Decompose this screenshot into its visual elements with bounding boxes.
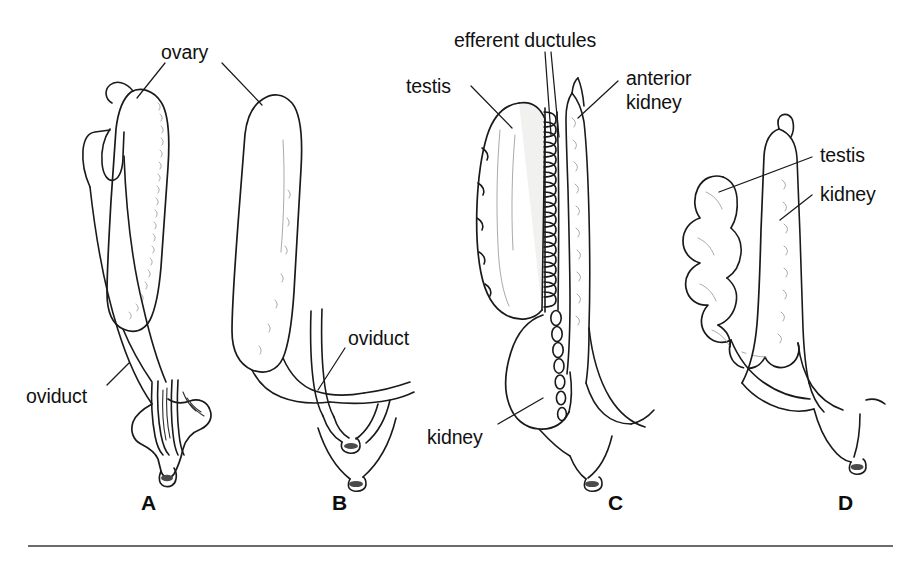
label-oviduct-a: oviduct <box>26 386 87 408</box>
label-efferent-ductules: efferent ductules <box>454 30 596 52</box>
panel-c-drawing <box>477 78 654 491</box>
figure-root: ovary oviduct oviduct efferent ductules … <box>0 0 919 561</box>
leader-oviduct-a <box>107 363 129 385</box>
cloacal-funnel-right-c <box>588 436 612 478</box>
kidney-right-branch-c <box>586 383 631 424</box>
papilla-lateral-spur-d <box>866 399 885 404</box>
kidney-lateral-branch-c <box>589 328 645 427</box>
cloacal-aperture-lower-b <box>349 481 363 487</box>
kidney-posterior-left-d <box>742 383 814 411</box>
papilla-left-wall-d <box>814 409 851 462</box>
cloaca-left-inner-b <box>334 417 349 438</box>
panel-letter-c: C <box>608 491 623 515</box>
efferent-ductules-lateral-c <box>557 112 559 310</box>
label-testis-d: testis <box>820 145 865 167</box>
panel-letter-a: A <box>141 491 156 515</box>
anterior-kidney-medial-edge-c <box>566 93 572 374</box>
oviduct-branch-upper-right-b <box>364 382 410 393</box>
cloacal-aperture-c <box>585 481 599 487</box>
panel-d-drawing <box>683 114 885 474</box>
cloacal-funnel-left-c <box>570 456 586 479</box>
anterior-kidney-lateral-edge-c <box>572 93 590 383</box>
leader-ovary-to-b <box>222 63 262 105</box>
cloacal-aperture-upper-b <box>344 443 358 449</box>
label-anterior-kidney-line1: anterior <box>626 68 691 90</box>
anatomy-illustration <box>0 0 919 561</box>
posterior-kidney-medial-c <box>569 372 571 412</box>
label-oviduct-b: oviduct <box>348 328 409 350</box>
ovary-body-b <box>232 95 302 372</box>
label-kidney-c: kidney <box>427 427 483 449</box>
panel-letter-b: B <box>332 491 347 515</box>
anterior-kidney-tip-c <box>572 78 578 93</box>
anterior-kidney-texture-c <box>572 118 581 325</box>
anterior-kidney-tip-right-c <box>578 78 584 106</box>
oviduct-tube-right-b <box>322 309 334 417</box>
papilla-right-wall-d <box>854 414 860 457</box>
panel-b-drawing <box>232 95 414 491</box>
papilla-aperture-d <box>851 464 864 470</box>
label-kidney-d: kidney <box>820 184 876 206</box>
leader-kidney-d <box>780 195 812 220</box>
panel-a-drawing <box>83 82 211 486</box>
posterior-kidney-lobe-c <box>506 315 569 429</box>
ovary-posterior-bend-b <box>252 370 330 403</box>
posterior-kidney-duct-c <box>539 429 570 456</box>
ovary-body-a <box>107 89 169 331</box>
label-testis-c: testis <box>406 76 451 98</box>
label-ovary: ovary <box>161 42 208 64</box>
label-anterior-kidney-line2: kidney <box>626 92 682 114</box>
oviduct-branch-lower-right-b <box>330 392 414 403</box>
cloacal-aperture-a <box>161 475 173 481</box>
panel-letter-d: D <box>838 491 853 515</box>
